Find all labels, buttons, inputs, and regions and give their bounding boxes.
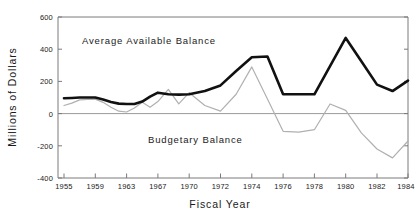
y-tick-label-0: 600	[40, 13, 53, 22]
y-tick-label-5: -400	[37, 174, 53, 183]
x-tick-label-8: 1978	[306, 182, 324, 191]
x-tick-label-6: 1974	[243, 182, 261, 191]
x-tick-label-9: 1980	[337, 182, 355, 191]
x-tick-label-5: 1972	[212, 182, 230, 191]
x-tick-label-7: 1976	[274, 182, 292, 191]
x-tick-label-2: 1963	[118, 182, 136, 191]
x-tick-label-10: 1982	[368, 182, 386, 191]
y-tick-label-1: 400	[40, 45, 53, 54]
x-tick-label-3: 1967	[149, 182, 167, 191]
y-tick-label-3: 0	[49, 110, 53, 119]
x-tick-label-4: 1970	[180, 182, 198, 191]
annotation-budgetary-balance: Budgetary Balance	[148, 134, 243, 145]
y-tick-label-4: -200	[37, 142, 53, 151]
annotation-average-available-balance: Average Available Balance	[82, 35, 216, 46]
y-axis-title: Millions of Dollars	[6, 47, 18, 146]
x-tick-label-0: 1955	[55, 182, 73, 191]
line-chart: 600 400 200 0 -200 -400 1955 1959 19	[0, 0, 419, 216]
x-tick-label-11: 1984	[397, 182, 415, 191]
chart-figure: 600 400 200 0 -200 -400 1955 1959 19	[0, 0, 419, 216]
x-tick-label-1: 1959	[87, 182, 105, 191]
x-axis-title: Fiscal Year	[189, 198, 250, 210]
y-tick-label-2: 200	[40, 77, 53, 86]
